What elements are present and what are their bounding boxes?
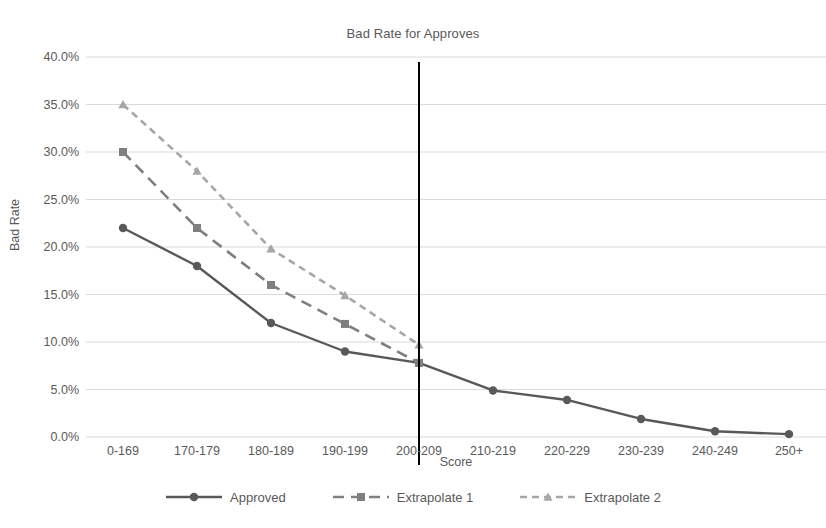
legend-key-triangle-icon xyxy=(519,490,577,504)
data-point-marker xyxy=(119,224,127,232)
x-axis-title: Score xyxy=(86,455,826,469)
data-point-marker xyxy=(266,244,275,252)
legend-key-circle-icon xyxy=(165,490,223,504)
y-axis-tick-label: 10.0% xyxy=(44,335,79,349)
y-axis-tick-label: 30.0% xyxy=(44,145,79,159)
data-point-marker xyxy=(341,347,349,355)
y-axis-tick-label: 40.0% xyxy=(44,50,79,64)
y-axis-tick-label: 25.0% xyxy=(44,193,79,207)
data-point-marker xyxy=(192,166,201,174)
series-extrapolate-1 xyxy=(119,148,423,367)
data-point-marker xyxy=(193,262,201,270)
data-point-marker xyxy=(267,281,275,289)
data-point-marker xyxy=(785,430,793,438)
data-point-marker xyxy=(637,415,645,423)
series-approved xyxy=(119,224,793,439)
data-point-marker xyxy=(489,386,497,394)
data-point-marker xyxy=(563,396,571,404)
chart-legend: ApprovedExtrapolate 1Extrapolate 2 xyxy=(0,490,826,504)
data-point-marker xyxy=(341,320,349,328)
data-point-marker xyxy=(193,224,201,232)
chart-container: Bad Rate for Approves Bad Rate 0.0%5.0%1… xyxy=(0,0,826,528)
plot-svg xyxy=(86,57,826,467)
data-point-marker xyxy=(267,319,275,327)
series-line xyxy=(123,105,419,345)
plot-area: 0.0%5.0%10.0%15.0%20.0%25.0%30.0%35.0%40… xyxy=(86,57,826,437)
legend-label: Approved xyxy=(230,491,286,504)
series-line xyxy=(123,152,419,363)
legend-label: Extrapolate 2 xyxy=(584,491,661,504)
y-axis-tick-label: 5.0% xyxy=(51,383,80,397)
y-axis-tick-label: 20.0% xyxy=(44,240,79,254)
y-axis-tick-label: 35.0% xyxy=(44,98,79,112)
y-axis-tick-label: 15.0% xyxy=(44,288,79,302)
legend-key-square-icon xyxy=(332,490,390,504)
data-point-marker xyxy=(711,427,719,435)
legend-label: Extrapolate 1 xyxy=(397,491,474,504)
chart-title: Bad Rate for Approves xyxy=(0,26,826,41)
legend-item-approved[interactable]: Approved xyxy=(165,490,286,504)
series-extrapolate-2 xyxy=(118,100,423,349)
data-point-marker xyxy=(119,148,127,156)
legend-item-extrapolate-1[interactable]: Extrapolate 1 xyxy=(332,490,474,504)
series-line xyxy=(123,228,789,434)
y-axis-title: Bad Rate xyxy=(8,180,22,270)
legend-item-extrapolate-2[interactable]: Extrapolate 2 xyxy=(519,490,661,504)
y-axis-tick-label: 0.0% xyxy=(51,430,80,444)
